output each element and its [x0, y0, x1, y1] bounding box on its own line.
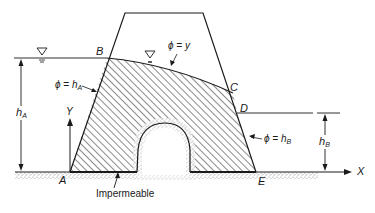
x-axis-label: X — [357, 166, 364, 177]
phreatic-line-label: ϕ = y — [168, 41, 190, 51]
point-label-a: A — [59, 175, 66, 186]
x-axis-arrowhead — [344, 169, 352, 175]
point-label-d: D — [240, 103, 248, 114]
dim-arrow-down — [19, 164, 24, 171]
water-level-triangle-upstream — [37, 48, 47, 55]
point-label-b: B — [96, 46, 103, 57]
impermeable-label: Impermeable — [96, 189, 154, 199]
point-label-e: E — [258, 176, 265, 187]
point-label-c: C — [230, 82, 238, 93]
upstream-face-label: ϕ = hA — [55, 80, 82, 90]
tailwater-height-label: hB — [319, 136, 330, 147]
dim-arrow-down — [323, 164, 328, 171]
water-level-triangle-phreatic — [145, 51, 155, 58]
leader-arrowhead — [170, 60, 175, 66]
downstream-face-label: ϕ = hB — [264, 134, 291, 144]
leader-arrowhead — [249, 134, 255, 139]
dam-seepage-diagram — [0, 0, 375, 213]
headwater-height-label: hA — [16, 107, 27, 118]
dim-arrow-up — [19, 59, 24, 66]
y-axis-arrowhead — [67, 118, 73, 126]
dim-arrow-up — [323, 114, 328, 121]
y-axis-label: Y — [66, 107, 73, 117]
